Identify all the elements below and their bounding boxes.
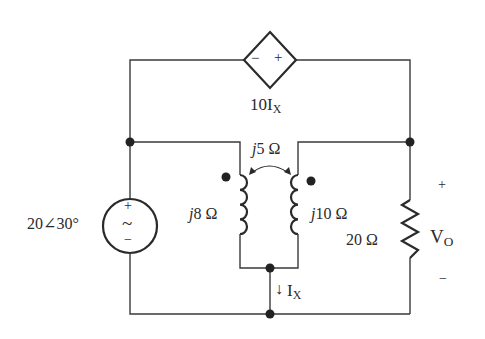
dep-source-label: 10IX bbox=[250, 95, 281, 117]
vo-minus: − bbox=[439, 271, 447, 287]
source-minus: − bbox=[124, 232, 132, 248]
wire-left-inductor-top bbox=[130, 142, 240, 175]
inductor-right-coil bbox=[291, 175, 298, 234]
resistor-label: 20 Ω bbox=[346, 231, 378, 249]
source-plus: + bbox=[124, 198, 132, 214]
dep-source-plus: + bbox=[274, 49, 282, 66]
wire-top-right bbox=[296, 60, 410, 142]
wire-right-inductor-top bbox=[298, 142, 410, 175]
vo-plus: + bbox=[438, 177, 446, 193]
node-right bbox=[406, 138, 415, 147]
source-value-label: 20∠30° bbox=[27, 214, 79, 233]
node-bottom bbox=[266, 310, 275, 319]
ix-arrow-icon: ↓ bbox=[275, 280, 283, 298]
wire-inductor-bottom bbox=[240, 234, 298, 268]
coupling-arrowhead-left bbox=[249, 167, 256, 175]
wire-top-left bbox=[130, 60, 244, 142]
polarity-dot-left bbox=[222, 173, 231, 182]
coupling-arrowhead-right bbox=[284, 167, 291, 175]
inductor-right-label: j10 Ω bbox=[311, 205, 347, 223]
inductor-left-label: j8 Ω bbox=[189, 205, 217, 223]
mutual-inductance-label: j5 Ω bbox=[252, 140, 280, 158]
mutual-coupling-arc bbox=[253, 166, 287, 172]
circuit-diagram bbox=[0, 0, 485, 339]
node-inductor-junction bbox=[266, 264, 275, 273]
polarity-dot-right bbox=[307, 177, 316, 186]
inductor-left-coil bbox=[240, 175, 247, 234]
resistor-zigzag bbox=[402, 200, 418, 258]
ix-label: IX bbox=[287, 281, 301, 303]
vo-label: VO bbox=[430, 226, 453, 250]
dep-source-minus: − bbox=[251, 50, 259, 67]
node-left bbox=[126, 138, 135, 147]
